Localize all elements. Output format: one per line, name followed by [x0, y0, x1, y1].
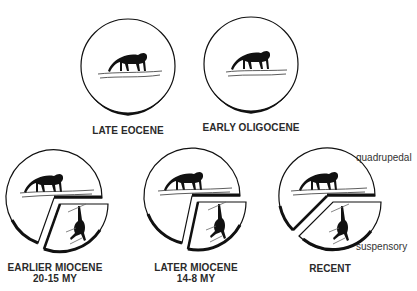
label-early-oligocene: EARLY OLIGOCENE [201, 122, 301, 133]
pie-later-miocene [144, 148, 246, 250]
sublabel-earlier-miocene: 20-15 MY [5, 273, 105, 284]
legend-suspensory: suspensory [356, 241, 407, 252]
pie-early-oligocene [204, 17, 298, 112]
label-late-eocene: LATE EOCENE [88, 125, 168, 136]
label-earlier-miocene: EARLIER MIOCENE [5, 262, 105, 273]
figure-canvas [0, 0, 417, 291]
sublabel-later-miocene: 14-8 MY [148, 273, 244, 284]
legend-quadrupedal: quadrupedal [356, 152, 412, 163]
pie-recent [279, 148, 381, 250]
pie-earlier-miocene [6, 150, 108, 252]
pie-late-eocene [81, 19, 175, 114]
label-later-miocene: LATER MIOCENE [148, 262, 244, 273]
label-recent: RECENT [300, 263, 360, 274]
